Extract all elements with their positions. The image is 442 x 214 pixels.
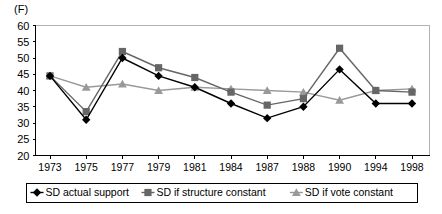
diamond-marker [263,114,271,122]
diamond-marker [408,99,416,107]
line-chart: 202530354045505560 197319751977197919811… [0,0,442,214]
square-marker [144,189,151,196]
diamond-marker [227,99,235,107]
y-tick-label: 45 [17,68,29,80]
x-tick-label: 1988 [292,161,316,173]
y-axis-tick-labels: 202530354045505560 [17,20,29,162]
x-tick-label: 1987 [256,161,280,173]
diamond-marker [154,72,162,80]
y-tick-label: 50 [17,52,29,64]
x-tick-label: 1977 [111,161,135,173]
square-marker [408,89,415,96]
x-tick-label: 1973 [38,161,62,173]
legend-item[interactable]: SD if vote constant [290,186,393,198]
y-tick-label: 40 [17,85,29,97]
y-tick-label: 35 [17,101,29,113]
chart-legend: SD actual supportSD if structure constan… [27,183,418,202]
chart-figure: (F) 202530354045505560 19731975197719791… [0,0,442,214]
square-marker [336,45,343,52]
x-tick-label: 1981 [183,161,207,173]
x-tick-label: 1975 [75,161,99,173]
legend-label: SD if structure constant [156,186,265,198]
x-tick-label: 1979 [147,161,171,173]
square-marker [191,74,198,81]
series-layer [46,45,417,124]
y-tick-label: 20 [17,150,29,162]
square-marker [372,87,379,94]
x-tick-label: 1998 [400,161,424,173]
square-marker [155,64,162,71]
y-tick-label: 60 [17,20,29,32]
square-marker [264,102,271,109]
x-tick-label: 1984 [219,161,243,173]
legend-item[interactable]: SD actual support [31,186,130,198]
legend-label: SD if vote constant [305,186,393,198]
x-tick-label: 1990 [328,161,352,173]
y-tick-label: 55 [17,36,29,48]
legend-label: SD actual support [46,186,130,198]
square-marker [227,89,234,96]
x-axis-tick-labels: 1973197519771979198119841987198819901994… [38,161,424,173]
legend-item[interactable]: SD if structure constant [141,186,265,198]
y-tick-label: 25 [17,133,29,145]
y-tick-label: 30 [17,117,29,129]
plot-area: 202530354045505560 197319751977197919811… [0,0,442,214]
square-marker [300,95,307,102]
x-tick-label: 1994 [364,161,388,173]
